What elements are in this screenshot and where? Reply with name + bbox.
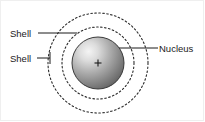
nucleus-label: Nucleus — [159, 43, 194, 54]
shell-inner-label: Shell — [10, 53, 31, 64]
diagram-canvas: Shell Shell Nucleus — [0, 0, 205, 122]
atom-diagram-figure: Shell Shell Nucleus — [0, 0, 205, 122]
shell-outer-label: Shell — [10, 28, 31, 39]
